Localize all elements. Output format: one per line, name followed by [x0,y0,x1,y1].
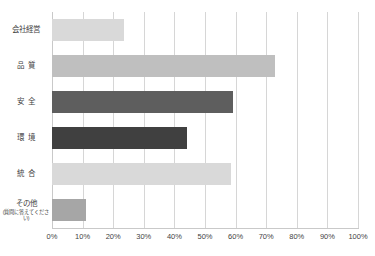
category-label-text: 会社経営 [12,25,40,34]
bar-6 [52,199,86,221]
category-label-text: その他 [16,199,37,208]
chart-title [180,0,370,6]
category-label-1: 会社経営 [2,25,50,35]
bar-row [52,127,358,149]
category-label-3: 安全 [2,97,50,107]
gridline-10% [83,12,84,228]
bar-5 [52,163,231,185]
bar-row [52,55,358,77]
category-label-6: その他(質問に答えてください) [2,199,50,221]
x-axis-line [52,228,359,229]
bar-row [52,19,358,41]
gridline-90% [327,12,328,228]
category-label-4: 環境 [2,133,50,143]
category-label-2: 品質 [2,61,50,71]
gridline-60% [236,12,237,228]
bar-row [52,163,358,185]
gridline-30% [144,12,145,228]
bar-chart: 会社経営品質安全環境統合その他(質問に答えてください) 0%10%20%30%4… [0,0,375,256]
category-label-text: 品質 [13,61,39,70]
plot-area [52,12,358,228]
x-tick-100%: 100% [338,232,375,242]
bar-row [52,91,358,113]
category-label-text: 環境 [13,133,39,142]
gridline-0% [52,12,53,228]
gridline-50% [205,12,206,228]
category-label-text: 安全 [13,97,39,106]
bar-1 [52,19,124,41]
bar-2 [52,55,275,77]
gridline-20% [113,12,114,228]
category-label-text: 統合 [13,169,39,178]
category-label-5: 統合 [2,169,50,179]
bar-3 [52,91,233,113]
gridline-80% [297,12,298,228]
bar-4 [52,127,187,149]
category-sublabel-text: (質問に答えてください) [2,209,50,221]
gridline-70% [266,12,267,228]
gridline-40% [174,12,175,228]
bar-row [52,199,358,221]
gridline-100% [358,12,359,228]
